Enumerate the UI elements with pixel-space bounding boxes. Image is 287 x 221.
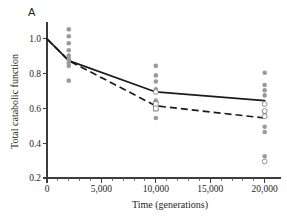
data-point-open-circle — [262, 114, 267, 119]
data-point-open-circle — [262, 102, 267, 107]
data-point-open-circle — [153, 90, 158, 95]
data-point-filled — [66, 34, 71, 39]
data-point-open-square — [153, 106, 158, 111]
data-point-filled — [66, 48, 71, 53]
data-point-open-circle — [262, 109, 267, 114]
data-point-filled — [154, 64, 159, 69]
data-point-filled — [154, 73, 159, 78]
data-point-filled — [66, 27, 71, 32]
x-tick-label: 20,000 — [252, 184, 278, 194]
y-tick-label: 0.4 — [29, 139, 41, 149]
y-tick-label: 0.6 — [29, 104, 41, 114]
data-point-filled — [262, 71, 267, 76]
data-point-filled — [154, 79, 159, 84]
x-tick-label: 15,000 — [197, 184, 223, 194]
data-point-filled — [262, 83, 267, 88]
data-point-filled — [66, 78, 71, 83]
data-point-filled — [154, 116, 159, 121]
data-point-open-circle — [262, 159, 267, 164]
data-point-filled — [66, 41, 71, 46]
x-tick-label: 5,000 — [91, 184, 113, 194]
y-tick-label: 0.2 — [29, 173, 41, 183]
data-point-filled — [262, 88, 267, 93]
data-point-filled — [262, 124, 267, 129]
data-point-filled — [66, 64, 71, 69]
y-tick-label: 1.0 — [29, 34, 41, 44]
y-axis-title: Total catabolic function — [9, 54, 20, 149]
data-point-filled — [262, 130, 267, 135]
data-point-filled — [262, 154, 267, 159]
x-axis-title: Time (generations) — [132, 199, 208, 211]
x-tick-label: 10,000 — [143, 184, 169, 194]
data-point-filled — [262, 93, 267, 98]
chart-canvas: 0.20.40.60.81.005,00010,00015,00020,000T… — [0, 0, 287, 221]
x-tick-label: 0 — [45, 184, 50, 194]
figure-panel-a: A 0.20.40.60.81.005,00010,00015,00020,00… — [0, 0, 287, 221]
y-tick-label: 0.8 — [29, 69, 41, 79]
